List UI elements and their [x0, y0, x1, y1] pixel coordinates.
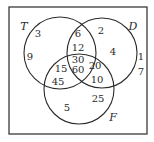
- region-t-only-value: 9: [27, 51, 33, 62]
- region-t-only-value: 3: [35, 28, 41, 39]
- region-t-d-f-value: 60: [72, 64, 85, 75]
- region-t-f-value: 45: [52, 76, 65, 87]
- set-f-label: F: [108, 111, 117, 124]
- set-d-label: D: [128, 20, 138, 33]
- venn-diagram: T D F 3 9 6 12 30 60 15 45 2 4 20 10 5 2…: [0, 0, 154, 142]
- region-t-d-value: 6: [75, 28, 81, 39]
- region-outside-value: 7: [138, 66, 144, 77]
- region-t-d-value: 12: [72, 42, 85, 53]
- region-d-f-value: 10: [91, 74, 104, 85]
- region-d-only-value: 4: [110, 46, 116, 57]
- region-f-only-value: 25: [92, 93, 105, 104]
- region-t-f-value: 15: [55, 63, 68, 74]
- region-d-f-value: 20: [89, 60, 102, 71]
- region-f-only-value: 5: [64, 102, 70, 113]
- region-d-only-value: 2: [98, 25, 104, 36]
- region-outside-value: 1: [138, 51, 144, 62]
